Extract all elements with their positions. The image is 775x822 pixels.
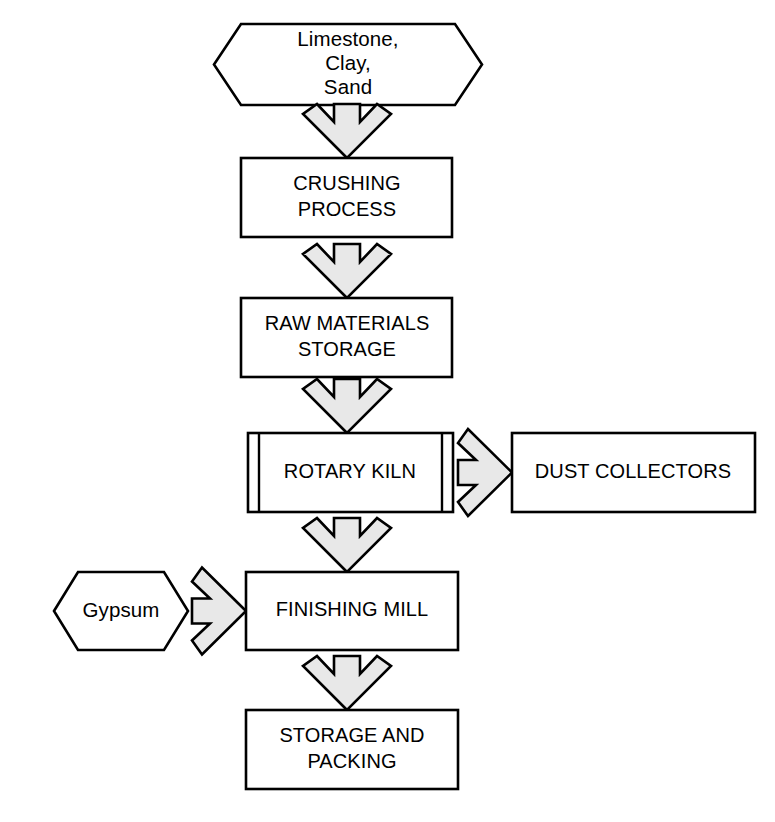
right-arrow-icon (192, 568, 246, 655)
storage-and-packing-label-line2: PACKING (307, 750, 396, 772)
arrow-gypsum-to-mill (192, 568, 246, 655)
storage-and-packing-label-line1: STORAGE AND (279, 724, 424, 746)
flowchart-canvas: Limestone, Clay, Sand CRUSHING PROCESS R… (0, 0, 775, 822)
node-dust-collectors[interactable]: DUST COLLECTORS (512, 433, 755, 512)
arrow-mill-to-packing (303, 656, 391, 710)
node-rotary-kiln[interactable]: ROTARY KILN (248, 433, 453, 512)
node-crushing-process[interactable]: CRUSHING PROCESS (241, 158, 452, 237)
node-raw-materials[interactable]: Limestone, Clay, Sand (214, 24, 482, 105)
raw-materials-label-line3: Sand (324, 75, 372, 98)
crushing-process-label-line1: CRUSHING (293, 172, 400, 194)
arrow-kiln-to-mill (303, 518, 391, 572)
down-arrow-icon (303, 518, 391, 572)
arrow-raw-to-crushing (303, 104, 391, 158)
down-arrow-icon (303, 244, 391, 298)
node-finishing-mill[interactable]: FINISHING MILL (246, 572, 458, 650)
down-arrow-icon (303, 104, 391, 158)
right-arrow-icon (458, 429, 512, 516)
arrow-kiln-to-dust (458, 429, 512, 516)
flowchart-diagram: Limestone, Clay, Sand CRUSHING PROCESS R… (0, 0, 775, 822)
node-raw-materials-storage[interactable]: RAW MATERIALS STORAGE (241, 298, 452, 377)
node-gypsum[interactable]: Gypsum (54, 572, 188, 650)
node-storage-and-packing[interactable]: STORAGE AND PACKING (246, 710, 458, 789)
gypsum-label: Gypsum (83, 598, 160, 621)
down-arrow-icon (303, 379, 391, 433)
finishing-mill-label: FINISHING MILL (276, 598, 429, 620)
raw-materials-label-line2: Clay, (325, 51, 371, 74)
raw-materials-storage-label-line2: STORAGE (298, 338, 396, 360)
crushing-process-label-line2: PROCESS (298, 198, 397, 220)
rotary-kiln-label: ROTARY KILN (284, 460, 416, 482)
dust-collectors-label: DUST COLLECTORS (535, 460, 731, 482)
arrow-storage-to-kiln (303, 379, 391, 433)
arrow-crushing-to-storage (303, 244, 391, 298)
raw-materials-label-line1: Limestone, (297, 27, 398, 50)
raw-materials-storage-label-line1: RAW MATERIALS (265, 312, 430, 334)
down-arrow-icon (303, 656, 391, 710)
